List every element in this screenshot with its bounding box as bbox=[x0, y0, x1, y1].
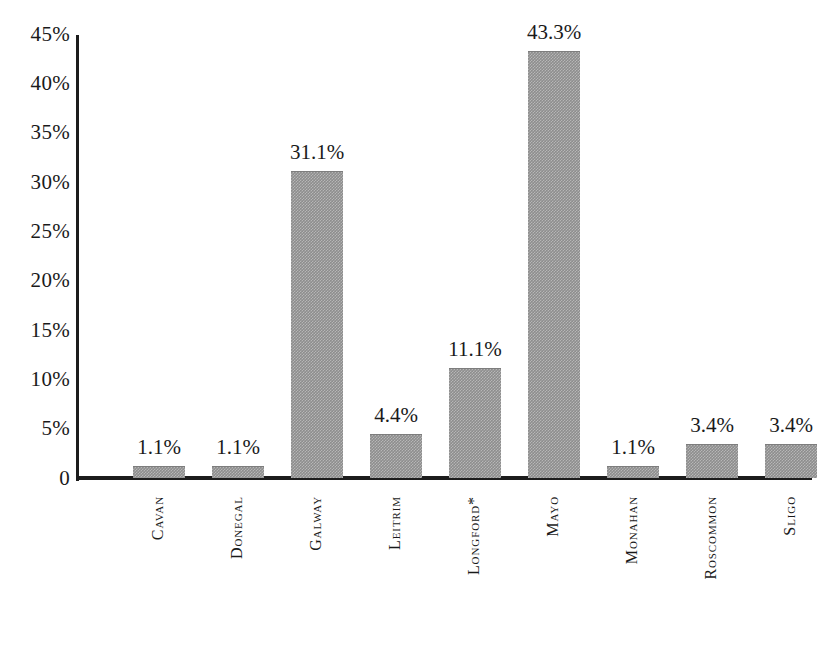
bar-cavan bbox=[133, 466, 185, 478]
bar-group-longford: 11.1% bbox=[449, 35, 501, 478]
x-label-leitrim-text: Leitrim bbox=[386, 496, 403, 646]
bar-value-leitrim: 4.4% bbox=[374, 405, 418, 426]
bar-donegal bbox=[212, 466, 264, 478]
bar-longford bbox=[449, 368, 501, 478]
x-label-monahan: Monahan bbox=[623, 496, 640, 646]
bar-value-donegal: 1.1% bbox=[216, 437, 260, 458]
bar-group-donegal: 1.1% bbox=[212, 35, 264, 478]
x-label-mayo: Mayo bbox=[544, 496, 561, 646]
y-tick-25: 25% bbox=[4, 221, 70, 242]
x-label-roscommon-text: Roscommon bbox=[702, 496, 719, 646]
bar-value-roscommon: 3.4% bbox=[690, 415, 734, 436]
bar-sligo bbox=[765, 444, 817, 478]
x-label-leitrim: Leitrim bbox=[386, 496, 403, 646]
y-tick-0: 0 bbox=[4, 468, 70, 489]
x-label-mayo-text: Mayo bbox=[544, 496, 561, 646]
y-tick-15: 15% bbox=[4, 320, 70, 341]
bar-group-leitrim: 4.4% bbox=[370, 35, 422, 478]
y-tick-5: 5% bbox=[4, 418, 70, 439]
x-label-donegal: Donegal bbox=[228, 496, 245, 646]
bar-value-galway: 31.1% bbox=[290, 142, 344, 163]
bar-value-cavan: 1.1% bbox=[137, 437, 181, 458]
bar-group-galway: 31.1% bbox=[291, 35, 343, 478]
x-label-sligo-text: Sligo bbox=[781, 496, 798, 646]
bar-monahan bbox=[607, 466, 659, 478]
y-tick-35: 35% bbox=[4, 122, 70, 143]
bar-value-longford: 11.1% bbox=[448, 339, 501, 360]
x-label-cavan: Cavan bbox=[149, 496, 166, 646]
x-label-longford-text: Longford* bbox=[465, 496, 482, 646]
x-label-sligo: Sligo bbox=[781, 496, 798, 646]
x-label-longford: Longford* bbox=[465, 496, 482, 646]
y-tick-20: 20% bbox=[4, 270, 70, 291]
y-tick-45: 45% bbox=[4, 24, 70, 45]
x-label-monahan-text: Monahan bbox=[623, 496, 640, 646]
bar-group-monahan: 1.1% bbox=[607, 35, 659, 478]
bar-group-sligo: 3.4% bbox=[765, 35, 817, 478]
plot-area: 1.1% 1.1% 31.1% 4.4% 11.1% 43.3% 1.1% bbox=[78, 35, 812, 478]
x-label-galway-text: Galway bbox=[307, 496, 324, 646]
y-tick-10: 10% bbox=[4, 369, 70, 390]
x-label-donegal-text: Donegal bbox=[228, 496, 245, 646]
bar-roscommon bbox=[686, 444, 738, 478]
y-axis-tick-labels: 45% 40% 35% 30% 25% 20% 15% 10% 5% 0 bbox=[0, 0, 70, 650]
bar-value-monahan: 1.1% bbox=[611, 437, 655, 458]
bar-value-sligo: 3.4% bbox=[769, 415, 813, 436]
bar-chart: 45% 40% 35% 30% 25% 20% 15% 10% 5% 0 1.1… bbox=[0, 0, 831, 650]
x-label-cavan-text: Cavan bbox=[149, 496, 166, 646]
bar-galway bbox=[291, 171, 343, 478]
bar-value-mayo: 43.3% bbox=[527, 22, 581, 43]
y-tick-30: 30% bbox=[4, 172, 70, 193]
x-label-galway: Galway bbox=[307, 496, 324, 646]
bar-group-mayo: 43.3% bbox=[528, 35, 580, 478]
bar-group-roscommon: 3.4% bbox=[686, 35, 738, 478]
bar-leitrim bbox=[370, 434, 422, 478]
y-tick-40: 40% bbox=[4, 73, 70, 94]
bar-group-cavan: 1.1% bbox=[133, 35, 185, 478]
x-label-roscommon: Roscommon bbox=[702, 496, 719, 646]
bar-mayo bbox=[528, 51, 580, 478]
